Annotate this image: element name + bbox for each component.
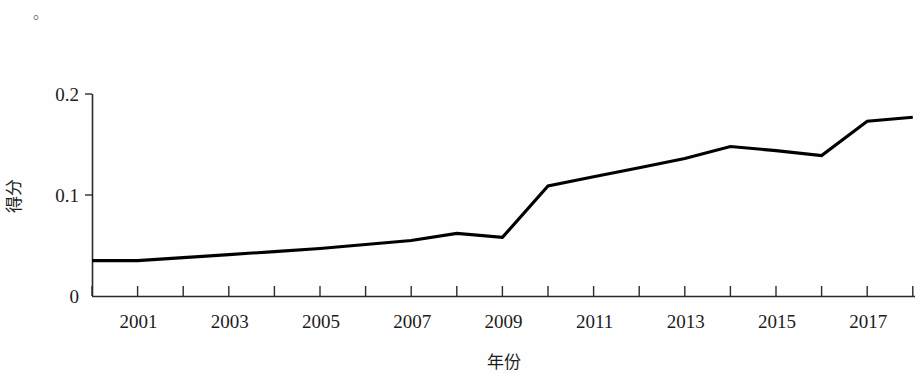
y-axis-tick-label: 0 [70,286,80,307]
x-axis-tick-label: 2017 [849,311,887,332]
x-axis-tick-label: 2005 [302,311,340,332]
line-chart: 得分 00.10.2 20012003200520072009201120132… [0,0,915,374]
x-axis-tick-label: 2003 [211,311,249,332]
x-axis-tick-label: 2011 [576,311,613,332]
x-axis-tick-label: 2001 [120,311,158,332]
x-axis-tick-label: 2013 [667,311,705,332]
x-axis-tick-label: 2007 [393,311,431,332]
y-axis-tick-marks [85,94,92,195]
x-axis-tick-marks [92,286,913,296]
data-series-line [92,117,913,260]
x-axis-tick-labels: 200120032005200720092011201320152017 [120,311,888,332]
y-axis-tick-label: 0.1 [55,185,79,206]
x-axis-tick-label: 2009 [484,311,522,332]
x-axis-tick-label: 2015 [758,311,796,332]
x-axis-title: 年份 [487,352,521,372]
y-axis-tick-label: 0.2 [55,84,79,105]
y-axis-tick-labels: 00.10.2 [55,84,79,307]
chart-page: 。 得分 00.10.2 200120032005200720092011201… [0,0,915,374]
y-axis-title: 得分 [4,179,24,213]
